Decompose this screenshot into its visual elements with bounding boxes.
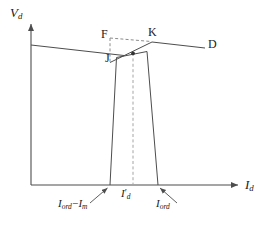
diagram-canvas: [0, 0, 269, 235]
left-tick-leader-arrow: [90, 188, 108, 203]
constant-current-trapezoid: [110, 52, 158, 186]
fk-dashed-connector: [110, 38, 151, 42]
droop-line-kd-segment: [152, 42, 205, 48]
operating-point-dot: [131, 51, 135, 55]
right-tick-leader-arrow: [160, 188, 177, 203]
dc-voltage-current-characteristic-diagram: Vd Id F K J D Iord−Im I′d Iord: [0, 0, 269, 235]
